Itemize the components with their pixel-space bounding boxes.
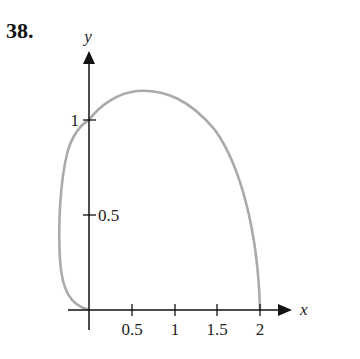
y-tick-label: 1 <box>71 111 80 130</box>
y-tick-label: 0.5 <box>98 206 119 225</box>
x-axis-label: x <box>299 300 308 319</box>
x-tick-label: 2 <box>256 320 265 339</box>
x-tick-label: 1 <box>171 320 180 339</box>
x-tick-label: 1.5 <box>206 320 227 339</box>
x-tick-label: 0.5 <box>121 320 142 339</box>
y-axis-arrow-icon <box>83 51 95 64</box>
y-axis-label: y <box>82 27 92 46</box>
x-axis-arrow-icon <box>278 304 292 316</box>
chart: 0.5 1 1.5 2 1 0.5 x y <box>0 0 360 359</box>
